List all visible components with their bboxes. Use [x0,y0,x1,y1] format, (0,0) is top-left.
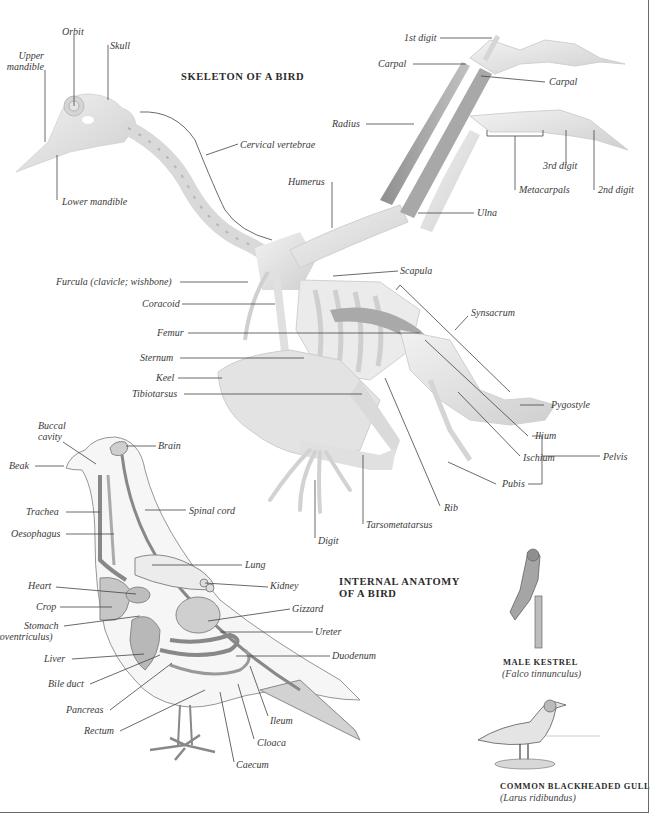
label-upper-mandible-1: Upper [0,50,44,61]
skeleton-title: SKELETON OF A BIRD [181,71,304,83]
label-metacarpals: Metacarpals [519,184,570,195]
label-ureter: Ureter [315,626,341,637]
internal-title-line2: OF A BIRD [339,588,397,600]
label-humerus: Humerus [288,176,325,187]
label-carpal-left: Carpal [378,58,406,69]
label-digit: Digit [318,535,339,546]
label-ulna: Ulna [477,207,497,218]
label-2nd-digit: 2nd digit [598,184,634,195]
label-pygostyle: Pygostyle [551,399,590,410]
label-coracoid: Coracoid [142,298,180,309]
page-border-right [648,0,649,813]
label-duodenum: Duodenum [332,650,376,661]
label-lower-mandible: Lower mandible [62,196,127,207]
label-sternum: Sternum [140,352,173,363]
page-border-bottom [0,812,649,813]
kestrel-scientific-name: (Falco tinnunculus) [502,668,581,679]
label-gizzard: Gizzard [292,603,323,614]
kestrel-illustration [510,549,542,648]
gull-common-name: COMMON BLACKHEADED GULL [500,781,650,791]
label-oesophagus: Oesophagus [11,528,60,539]
label-spinal-cord: Spinal cord [189,505,235,516]
label-heart: Heart [28,580,51,591]
label-scapula: Scapula [400,265,432,276]
label-tibiotarsus: Tibiotarsus [132,388,177,399]
label-keel: Keel [156,372,174,383]
label-radius: Radius [332,118,360,129]
anatomy-plate: SKELETON OF A BIRD Orbit Skull Upper man… [0,0,660,818]
label-1st-digit: 1st digit [404,32,437,43]
label-ilium: Ilium [535,430,556,441]
label-rectum: Rectum [84,725,114,736]
label-caecum: Caecum [236,759,269,770]
label-lung: Lung [245,559,266,570]
label-pancreas: Pancreas [66,704,103,715]
label-bile-duct: Bile duct [48,678,84,689]
label-carpal-right: Carpal [549,76,577,87]
label-ischium: Ischium [523,452,555,463]
label-kidney: Kidney [270,580,298,591]
label-pelvis: Pelvis [603,451,627,462]
label-femur: Femur [157,327,184,338]
internal-title-line1: INTERNAL ANATOMY [339,576,460,588]
label-skull: Skull [110,40,130,51]
label-crop: Crop [36,601,56,612]
label-cervical-vertebrae: Cervical vertebrae [240,139,315,150]
label-stomach-1: Stomach [24,620,58,631]
label-brain: Brain [158,440,181,451]
bird-internal-anatomy [66,437,360,760]
label-buccal-2: cavity [38,431,62,442]
label-liver: Liver [44,653,65,664]
kestrel-common-name: MALE KESTREL [503,657,578,667]
label-beak: Beak [9,460,29,471]
label-ileum: Ileum [270,715,293,726]
gull-illustration [478,700,600,769]
label-orbit: Orbit [62,26,84,37]
label-trachea: Trachea [26,506,59,517]
gull-scientific-name: (Larus ridibundus) [500,792,576,803]
label-furcula: Furcula (clavicle; wishbone) [56,276,172,287]
label-cloaca: Cloaca [257,737,286,748]
label-buccal-1: Buccal [38,420,66,431]
label-3rd-digit: 3rd digit [543,160,577,171]
label-rib: Rib [444,502,458,513]
label-upper-mandible-2: mandible [0,61,44,72]
label-synsacrum: Synsacrum [471,307,515,318]
label-tarsometatarsus: Tarsometatarsus [366,519,432,530]
label-stomach-2: (proventriculus) [0,631,53,642]
label-pubis: Pubis [502,478,525,489]
